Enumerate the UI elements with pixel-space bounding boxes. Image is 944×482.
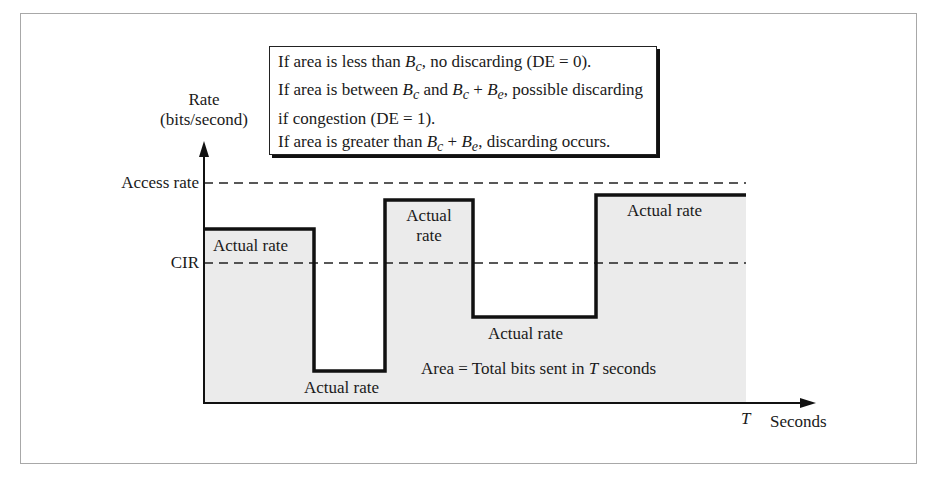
segment-label-2: Actual rate	[304, 378, 379, 398]
legend-text: and	[419, 80, 452, 99]
var-b: B	[405, 52, 415, 71]
legend-box: If area is less than Bc, no discarding (…	[269, 46, 657, 155]
segment-label-1: Actual rate	[213, 236, 288, 256]
legend-line-3: if congestion (DE = 1).	[278, 107, 656, 130]
area-label-prefix: Area = Total bits sent in	[421, 359, 589, 378]
var-b: B	[403, 80, 413, 99]
var-b: B	[452, 80, 462, 99]
segment-label-5: Actual rate	[627, 201, 702, 221]
segment-label-4: Actual rate	[488, 324, 563, 344]
var-b: B	[487, 80, 497, 99]
area-label-var: T	[589, 359, 598, 378]
legend-line-4: If area is greater than Bc + Be, discard…	[278, 130, 656, 158]
legend-text: If area is between	[278, 80, 403, 99]
area-label-suffix: seconds	[598, 359, 656, 378]
legend-line-2: If area is between Bc and Bc + Be, possi…	[278, 78, 656, 106]
legend-line-1: If area is less than Bc, no discarding (…	[278, 50, 656, 78]
segment-label-3-line2: rate	[388, 226, 470, 246]
segment-label-3-line1: Actual	[388, 206, 470, 226]
var-b: B	[461, 132, 471, 151]
legend-text: , discarding occurs.	[478, 132, 610, 151]
legend-text: , no discarding (DE = 0).	[422, 52, 592, 71]
access-rate-label: Access rate	[121, 173, 199, 193]
segment-label-3: Actual rate	[388, 206, 470, 246]
cir-label: CIR	[171, 253, 199, 273]
y-axis-label: Rate (bits/second)	[150, 90, 258, 130]
area-label: Area = Total bits sent in T seconds	[421, 359, 656, 379]
legend-text: +	[443, 132, 461, 151]
y-axis-label-line1: Rate	[150, 90, 258, 110]
legend-text: If area is less than	[278, 52, 405, 71]
var-b: B	[427, 132, 437, 151]
y-axis-arrow-icon	[199, 141, 209, 157]
legend-text: +	[469, 80, 487, 99]
y-axis-label-line2: (bits/second)	[150, 110, 258, 130]
legend-text: If area is greater than	[278, 132, 427, 151]
x-axis-arrow-icon	[800, 398, 816, 408]
x-axis-label: Seconds	[770, 412, 827, 432]
x-axis-end-marker: T	[741, 409, 750, 429]
legend-text: , possible discarding	[504, 80, 643, 99]
